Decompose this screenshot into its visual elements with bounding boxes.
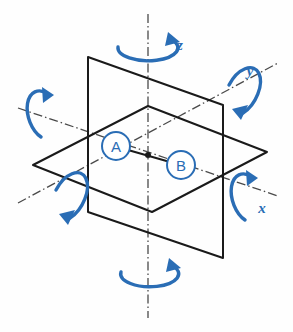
rotation-arrow-x-right [231,170,258,220]
node-a-label: A [111,138,121,155]
axis-label-x: x [257,200,266,216]
rotation-arrow-x-left [27,87,54,137]
rotation-arrow-z-top [118,32,180,61]
axis-label-z: z [176,37,183,53]
origin-point [145,152,151,158]
rotation-arrow-z-bottom [121,258,181,287]
node-a: A [102,132,130,160]
rotation-diagram: z y x A B [0,0,293,332]
node-b-label: B [176,157,186,174]
node-b: B [167,151,195,179]
axis-label-y: y [245,63,254,79]
diagram-canvas: z y x A B [0,0,293,332]
